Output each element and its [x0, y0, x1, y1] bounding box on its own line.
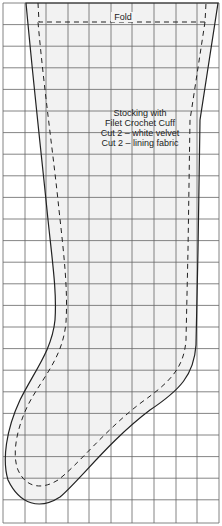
stocking-cut-outline: [5, 3, 218, 504]
stocking-pattern: [0, 0, 222, 526]
fold-label: Fold: [111, 12, 135, 22]
pattern-instructions: Stocking with Filet Crochet Cuff Cut 2 –…: [88, 108, 192, 148]
instruction-cut-lining: Cut 2 – lining fabric: [88, 138, 192, 148]
instruction-title: Stocking with: [88, 108, 192, 118]
instruction-subtitle: Filet Crochet Cuff: [88, 118, 192, 128]
instruction-cut-velvet: Cut 2 – white velvet: [88, 128, 192, 138]
